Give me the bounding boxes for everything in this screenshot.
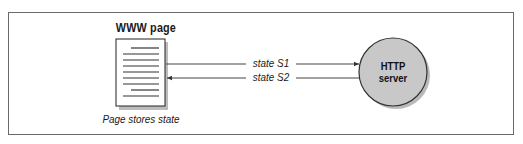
server-label: HTTP server	[371, 60, 416, 84]
server-label-line1: HTTP	[371, 60, 416, 72]
page-caption: Page stores state	[98, 113, 184, 125]
document-icon	[116, 39, 168, 110]
arrow-label-s2: state S2	[249, 71, 294, 83]
page-title: WWW page	[116, 21, 166, 35]
arrow-label-s1: state S1	[249, 57, 294, 69]
server-label-line2: server	[371, 72, 416, 84]
